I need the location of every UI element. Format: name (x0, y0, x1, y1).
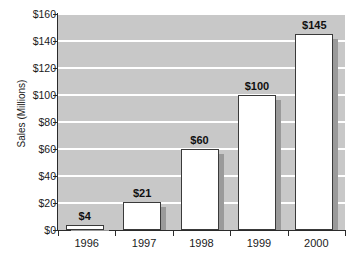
bar-1997[interactable] (123, 202, 161, 230)
x-axis-tick-mark (345, 231, 346, 236)
bar-value-label: $21 (107, 188, 177, 199)
y-axis-tick-mark (53, 203, 58, 204)
x-axis-tick-mark (115, 231, 116, 236)
y-axis-tick-label: $20 (14, 198, 56, 209)
y-axis-tick-mark (53, 149, 58, 150)
bar-value-label: $100 (222, 81, 292, 92)
bar-value-label: $145 (279, 20, 349, 31)
x-axis-tick-mark (173, 231, 174, 236)
x-axis-tick-mark (58, 231, 59, 236)
bar-value-label: $60 (165, 135, 235, 146)
y-axis-tick-mark (53, 95, 58, 96)
x-axis-tick-mark (230, 231, 231, 236)
y-axis-tick-label: $100 (14, 90, 56, 101)
bar-value-label: $4 (50, 211, 120, 222)
y-axis-tick-mark (53, 122, 58, 123)
bar-1998[interactable] (181, 149, 219, 230)
y-axis-tick-label: $160 (14, 9, 56, 20)
y-axis-tick-label: $80 (14, 117, 56, 128)
x-axis-category-label-2000: 2000 (280, 238, 353, 249)
y-axis-tick-mark (53, 176, 58, 177)
x-axis-line (57, 230, 346, 231)
y-axis-tick-label: $120 (14, 63, 56, 74)
y-axis-tick-label: $140 (14, 36, 56, 47)
y-axis-tick-mark (53, 14, 58, 15)
y-axis-tick-label: $0 (14, 225, 56, 236)
x-axis-tick-mark (288, 231, 289, 236)
bar-chart: Sales (Millions) $0$20$40$60$80$100$120$… (0, 0, 353, 261)
y-axis-tick-mark (53, 41, 58, 42)
y-axis-tick-label: $60 (14, 144, 56, 155)
y-axis-tick-mark (53, 68, 58, 69)
bar-2000[interactable] (295, 34, 333, 230)
bar-1999[interactable] (238, 95, 276, 230)
bar-1996[interactable] (66, 225, 104, 230)
gridline (58, 13, 345, 15)
y-axis-tick-label: $40 (14, 171, 56, 182)
y-axis-tick-labels: $0$20$40$60$80$100$120$140$160 (14, 0, 56, 261)
